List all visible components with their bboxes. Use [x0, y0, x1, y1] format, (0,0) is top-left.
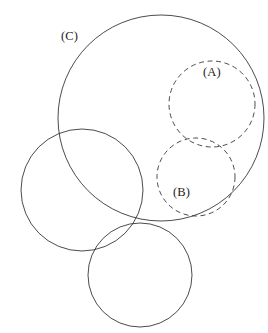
figure-canvas: (C) (A) (B) — [0, 0, 268, 333]
circle-diagram — [0, 0, 268, 333]
label-c: (C) — [61, 30, 78, 43]
label-a: (A) — [203, 66, 221, 79]
circle-left — [21, 129, 143, 251]
circle-bottom — [88, 223, 192, 327]
label-b: (B) — [173, 186, 190, 199]
circle-b — [157, 138, 235, 216]
